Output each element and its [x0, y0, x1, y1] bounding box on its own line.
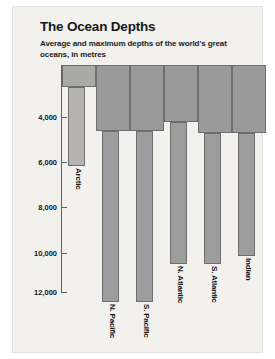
y-axis-line — [61, 65, 62, 292]
chart-figure: The Ocean Depths Average and maximum dep… — [13, 7, 262, 352]
category-label-n-pacific: N. Pacific — [108, 304, 117, 338]
bar-maximum-s-atlantic[interactable] — [204, 133, 221, 264]
y-tick-label-6000: 6,000 — [38, 158, 57, 167]
y-tick-8000 — [61, 207, 67, 208]
category-label-s-pacific: S. Pacific — [142, 304, 151, 338]
plot-area: 4,000 6,000 8,000 10,000 12,000 Arctic N… — [13, 7, 262, 352]
y-tick-4000 — [61, 117, 67, 118]
bar-average-indian[interactable] — [232, 65, 266, 133]
category-label-s-atlantic: S. Atlantic — [210, 266, 219, 303]
y-tick-label-8000: 8,000 — [38, 203, 57, 212]
bar-maximum-arctic[interactable] — [68, 87, 85, 166]
y-tick-12000 — [61, 292, 67, 293]
category-label-n-atlantic: N. Atlantic — [176, 266, 185, 303]
y-tick-6000 — [61, 162, 67, 163]
bar-maximum-n-atlantic[interactable] — [170, 122, 187, 264]
bar-average-n-atlantic[interactable] — [164, 65, 198, 122]
y-tick-label-10000: 10,000 — [34, 249, 57, 258]
bar-average-arctic[interactable] — [62, 65, 96, 87]
y-tick-label-12000: 12,000 — [34, 288, 57, 297]
category-label-indian: Indian — [244, 258, 253, 280]
bar-maximum-s-pacific[interactable] — [136, 131, 153, 302]
category-label-arctic: Arctic — [74, 168, 83, 189]
y-tick-label-4000: 4,000 — [38, 113, 57, 122]
bar-maximum-n-pacific[interactable] — [102, 131, 119, 302]
bar-average-s-atlantic[interactable] — [198, 65, 232, 133]
bar-average-s-pacific[interactable] — [130, 65, 164, 131]
bar-maximum-indian[interactable] — [238, 133, 255, 256]
bar-average-n-pacific[interactable] — [96, 65, 130, 131]
y-tick-10000 — [61, 253, 67, 254]
